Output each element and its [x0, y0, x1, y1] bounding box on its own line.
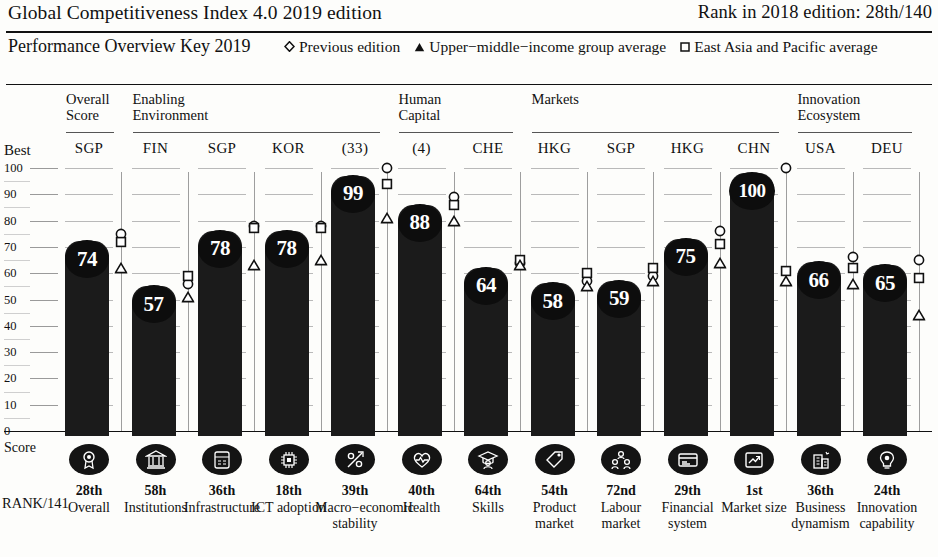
- column-gridline: [265, 221, 313, 222]
- score-bar-9[interactable]: 75: [664, 239, 708, 436]
- pillar-name-12: Innovation capability: [847, 500, 927, 533]
- east-asia-pacific-marker-4: [381, 178, 393, 190]
- y-axis-minor-gridline: [4, 207, 30, 208]
- economy-code-row: SGPFINSGPKOR(33)(4)CHEHKGSGPHKGCHNUSADEU: [0, 140, 938, 162]
- score-value-6: 64: [464, 267, 508, 305]
- group-header-band: OverallScoreEnablingEnvironmentHumanCapi…: [0, 92, 938, 136]
- column-gridline: [863, 194, 911, 195]
- group-header-markets: Markets: [532, 92, 580, 108]
- column-gridline: [464, 194, 512, 195]
- score-value-10: 100: [729, 172, 775, 210]
- column-gridline: [464, 247, 512, 248]
- score-bar-0[interactable]: 74: [65, 241, 109, 436]
- upper-middle-income-marker-6: [514, 259, 527, 271]
- score-bar-11[interactable]: 66: [797, 262, 841, 436]
- group-header-line2: Ecosystem: [798, 108, 861, 124]
- column-gridline: [464, 221, 512, 222]
- column-marker-rail: [919, 172, 920, 431]
- column-gridline: [797, 168, 845, 169]
- upper-middle-income-marker-11: [846, 278, 859, 290]
- column-gridline: [730, 168, 778, 169]
- score-bar-5[interactable]: 88: [398, 205, 442, 436]
- institution-icon[interactable]: [136, 444, 176, 475]
- column-gridline: [464, 168, 512, 169]
- column-gridline: [797, 247, 845, 248]
- y-axis-gridline: [30, 247, 58, 248]
- rank-summary: Rank in 2018 edition: 28th/140: [698, 2, 932, 23]
- east-asia-pacific-marker-5: [448, 199, 460, 211]
- y-axis-tick-50: 50: [4, 293, 17, 306]
- score-value-7: 58: [531, 282, 575, 320]
- column-gridline: [132, 194, 180, 195]
- score-bar-1[interactable]: 57: [132, 286, 176, 436]
- factory-icon[interactable]: [801, 444, 841, 475]
- y-axis-tick-100: 100: [4, 162, 23, 175]
- rank-value-4: 39th: [342, 483, 368, 498]
- rank-value-2: 36th: [209, 483, 235, 498]
- bulb-icon[interactable]: [867, 444, 907, 475]
- score-value-5: 88: [398, 204, 442, 242]
- score-bar-8[interactable]: 59: [597, 281, 641, 436]
- upper-middle-income-marker-12: [913, 309, 926, 321]
- award-icon[interactable]: [69, 444, 109, 475]
- score-bar-2[interactable]: 78: [198, 231, 242, 436]
- rank-value-6: 64th: [475, 483, 501, 498]
- east-asia-pacific-marker-9: [714, 238, 726, 250]
- performance-key-row: Performance Overview Key 2019 Previous e…: [8, 36, 934, 82]
- column-marker-rail: [254, 172, 255, 431]
- card-icon[interactable]: [668, 444, 708, 475]
- column-gridline: [265, 194, 313, 195]
- y-axis-minor-gridline: [4, 313, 30, 314]
- east-asia-pacific-marker-12: [913, 272, 925, 284]
- column-gridline: [531, 194, 579, 195]
- heart-icon[interactable]: [402, 444, 442, 475]
- rank-value-12: 24th: [874, 483, 900, 498]
- legend-item-upper-middle-income: Upper−middle−income group average: [414, 38, 666, 56]
- score-value-1: 57: [132, 285, 176, 323]
- economy-code-10: CHN: [724, 140, 784, 157]
- group-header-line1: Innovation: [798, 92, 861, 108]
- east-asia-pacific-marker-0: [115, 236, 127, 248]
- score-bar-10[interactable]: 100: [730, 173, 774, 436]
- group-header-enabling: EnablingEnvironment: [133, 92, 209, 123]
- column-marker-rail: [520, 172, 521, 431]
- score-bar-7[interactable]: 58: [531, 283, 575, 436]
- chip-icon[interactable]: [269, 444, 309, 475]
- score-bar-6[interactable]: 64: [464, 268, 508, 436]
- group-header-line1: Overall: [66, 92, 109, 108]
- column-marker-rail: [121, 172, 122, 431]
- column-marker-rail: [720, 172, 721, 431]
- economy-code-8: SGP: [591, 140, 651, 157]
- column-gridline: [597, 168, 645, 169]
- y-axis-tick-70: 70: [4, 241, 17, 254]
- score-bar-3[interactable]: 78: [265, 231, 309, 436]
- column-gridline: [863, 221, 911, 222]
- column-marker-rail: [653, 172, 654, 431]
- y-axis-gridline: [30, 326, 58, 327]
- people-icon[interactable]: [601, 444, 641, 475]
- column-marker-rail: [786, 172, 787, 431]
- column-marker-rail: [454, 172, 455, 431]
- column-gridline: [198, 221, 246, 222]
- graduate-icon[interactable]: [468, 444, 508, 475]
- column-gridline: [531, 168, 579, 169]
- footer-column-12: 24thInnovation capability: [847, 440, 927, 533]
- score-bar-4[interactable]: 99: [331, 176, 375, 436]
- column-gridline: [65, 168, 113, 169]
- rank-value-11: 36th: [807, 483, 833, 498]
- rank-value-0: 28th: [76, 483, 102, 498]
- tag-icon[interactable]: [535, 444, 575, 475]
- east-asia-pacific-marker-2: [248, 222, 260, 234]
- economy-code-9: HKG: [658, 140, 718, 157]
- east-asia-pacific-marker-8: [647, 262, 659, 274]
- column-gridline: [331, 168, 379, 169]
- infrastructure-icon[interactable]: [202, 444, 242, 475]
- column-gridline: [531, 247, 579, 248]
- score-value-11: 66: [797, 261, 841, 299]
- upper-middle-income-marker-9: [713, 257, 726, 269]
- column-gridline: [132, 168, 180, 169]
- score-bar-12[interactable]: 65: [863, 265, 907, 436]
- group-underline: [133, 132, 381, 133]
- percent-icon[interactable]: [335, 444, 375, 475]
- growth-icon[interactable]: [734, 444, 774, 475]
